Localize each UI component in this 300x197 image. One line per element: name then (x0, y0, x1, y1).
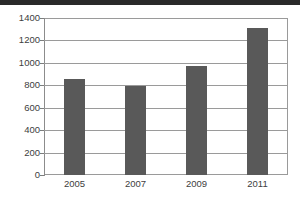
bar-chart: 0200400600800100012001400 20052007200920… (0, 0, 300, 197)
bar (125, 86, 146, 175)
y-tick-mark (40, 175, 44, 176)
y-tick-label: 400 (4, 125, 40, 135)
x-tick-label: 2011 (228, 178, 288, 189)
bar (247, 28, 268, 175)
x-tick-label: 2005 (45, 178, 105, 189)
bar (64, 79, 85, 175)
y-tick-label: 200 (4, 148, 40, 158)
y-tick-mark (40, 85, 44, 86)
y-tick-mark (40, 18, 44, 19)
x-axis-labels: 2005200720092011 (0, 178, 300, 197)
y-tick-mark (40, 153, 44, 154)
x-tick-label: 2007 (106, 178, 166, 189)
y-axis-labels: 0200400600800100012001400 (0, 0, 40, 197)
bar (186, 66, 207, 175)
y-tick-mark (40, 130, 44, 131)
y-tick-label: 800 (4, 80, 40, 90)
y-tick-label: 1000 (4, 58, 40, 68)
x-tick-label: 2009 (167, 178, 227, 189)
y-tick-label: 1200 (4, 35, 40, 45)
y-tick-label: 600 (4, 103, 40, 113)
y-tick-label: 1400 (4, 13, 40, 23)
y-tick-mark (40, 108, 44, 109)
y-tick-mark (40, 40, 44, 41)
y-tick-mark (40, 63, 44, 64)
